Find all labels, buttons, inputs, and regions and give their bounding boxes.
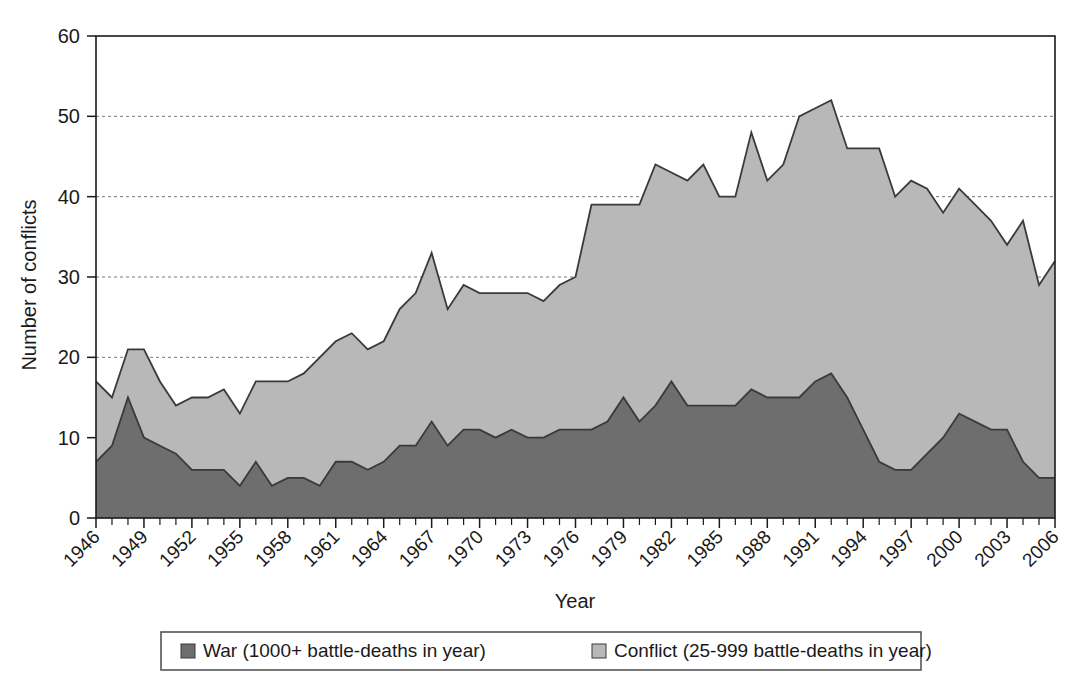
x-axis-ticks (96, 518, 1055, 528)
y-tick-label-20: 20 (58, 346, 80, 368)
y-tick-label-30: 30 (58, 266, 80, 288)
y-axis-title: Number of conflicts (18, 199, 40, 370)
y-tick-label-0: 0 (69, 507, 80, 529)
y-tick-label-50: 50 (58, 105, 80, 127)
legend-swatch-conflict (592, 644, 606, 658)
legend-swatch-war (181, 644, 195, 658)
legend-label-conflict: Conflict (25-999 battle-deaths in year) (614, 640, 932, 661)
y-tick-label-60: 60 (58, 25, 80, 47)
conflicts-area-chart: Number of conflicts 0102030405060 194619… (0, 0, 1080, 697)
legend-label-war: War (1000+ battle-deaths in year) (203, 640, 486, 661)
y-tick-label-40: 40 (58, 186, 80, 208)
chart-container: Number of conflicts 0102030405060 194619… (0, 0, 1080, 697)
x-axis-title: Year (555, 590, 596, 612)
chart-legend: War (1000+ battle-deaths in year) Confli… (161, 632, 932, 670)
y-tick-label-10: 10 (58, 427, 80, 449)
